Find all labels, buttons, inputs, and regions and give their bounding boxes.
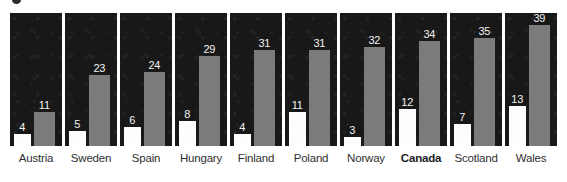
scan-artifact — [12, 0, 21, 4]
bar-low-sweden: 5 — [69, 131, 86, 146]
bar-low-wales: 13 — [509, 106, 526, 146]
bar-high-finland: 31 — [254, 50, 275, 146]
bar-high-sweden: 23 — [89, 75, 110, 146]
category-label-hungary: Hungary — [175, 150, 227, 170]
bar-group-hungary: 829 — [175, 13, 227, 146]
bar-high-hungary: 29 — [199, 56, 220, 146]
bar-value-label: 4 — [239, 121, 245, 133]
bars-container: 1339 — [505, 13, 557, 146]
bar-low-scotland: 7 — [454, 124, 471, 146]
plot-area: 411523624829431113133212347351339 — [10, 13, 557, 146]
bar-value-label: 5 — [74, 118, 80, 130]
bar-group-norway: 332 — [340, 13, 392, 146]
bar-value-label: 29 — [203, 43, 215, 55]
bar-value-label: 23 — [93, 62, 105, 74]
bar-group-austria: 411 — [10, 13, 62, 146]
bar-value-label: 31 — [258, 37, 270, 49]
bar-value-label: 24 — [148, 59, 160, 71]
bars-container: 624 — [120, 13, 172, 146]
bar-value-label: 32 — [368, 34, 380, 46]
category-label-norway: Norway — [340, 150, 392, 170]
bar-group-finland: 431 — [230, 13, 282, 146]
bar-high-austria: 11 — [34, 112, 55, 146]
category-label-canada: Canada — [395, 150, 447, 170]
chart-figure: 411523624829431113133212347351339 Austri… — [0, 0, 567, 182]
category-label-finland: Finland — [230, 150, 282, 170]
bar-group-spain: 624 — [120, 13, 172, 146]
bar-value-label: 35 — [478, 25, 490, 37]
bar-value-label: 8 — [184, 108, 190, 120]
bars-container: 735 — [450, 13, 502, 146]
bar-high-norway: 32 — [364, 47, 385, 146]
bar-low-norway: 3 — [344, 137, 361, 146]
bar-low-hungary: 8 — [179, 121, 196, 146]
bar-value-label: 11 — [292, 99, 303, 111]
bars-container: 829 — [175, 13, 227, 146]
bar-high-spain: 24 — [144, 72, 165, 146]
bar-value-label: 11 — [39, 99, 50, 111]
bar-high-poland: 31 — [309, 50, 330, 146]
bars-container: 1234 — [395, 13, 447, 146]
category-label-sweden: Sweden — [65, 150, 117, 170]
bars-container: 431 — [230, 13, 282, 146]
bar-value-label: 31 — [313, 37, 325, 49]
bar-value-label: 12 — [401, 96, 413, 108]
bars-container: 332 — [340, 13, 392, 146]
bar-low-spain: 6 — [124, 127, 141, 146]
bar-value-label: 7 — [459, 111, 465, 123]
bar-group-wales: 1339 — [505, 13, 557, 146]
bar-high-wales: 39 — [529, 25, 550, 146]
bar-low-finland: 4 — [234, 134, 251, 146]
bar-low-austria: 4 — [14, 134, 31, 146]
category-axis: AustriaSwedenSpainHungaryFinlandPolandNo… — [10, 150, 557, 170]
bars-container: 411 — [10, 13, 62, 146]
bar-group-sweden: 523 — [65, 13, 117, 146]
bar-value-label: 13 — [511, 93, 523, 105]
category-label-wales: Wales — [505, 150, 557, 170]
bar-low-canada: 12 — [399, 109, 416, 146]
bar-group-scotland: 735 — [450, 13, 502, 146]
bar-high-canada: 34 — [419, 41, 440, 146]
bar-value-label: 39 — [533, 12, 545, 24]
bar-value-label: 4 — [19, 121, 25, 133]
bar-group-canada: 1234 — [395, 13, 447, 146]
bars-container: 1131 — [285, 13, 337, 146]
category-label-poland: Poland — [285, 150, 337, 170]
bar-group-poland: 1131 — [285, 13, 337, 146]
bar-low-poland: 11 — [289, 112, 306, 146]
bars-container: 523 — [65, 13, 117, 146]
category-label-spain: Spain — [120, 150, 172, 170]
category-label-scotland: Scotland — [450, 150, 502, 170]
bar-value-label: 3 — [349, 124, 355, 136]
category-label-austria: Austria — [10, 150, 62, 170]
bar-value-label: 34 — [423, 28, 435, 40]
bar-value-label: 6 — [129, 114, 135, 126]
bar-high-scotland: 35 — [474, 38, 495, 146]
